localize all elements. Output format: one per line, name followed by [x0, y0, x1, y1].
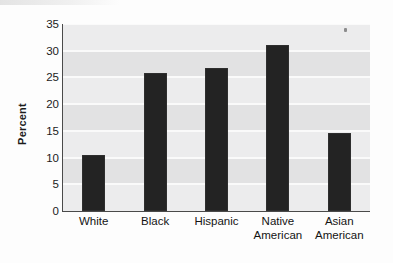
- bar: [328, 133, 351, 211]
- scan-artifact-smudge: [0, 0, 120, 5]
- x-axis-tick-label: AsianAmerican: [315, 214, 364, 242]
- x-axis-tick-label-line: Black: [141, 215, 169, 227]
- y-axis-tick-label: 15: [46, 125, 59, 137]
- x-axis-tick-label: Hispanic: [194, 214, 238, 228]
- y-axis-tick-label: 20: [46, 98, 59, 110]
- x-axis-tick-label-line: Hispanic: [194, 215, 238, 227]
- y-axis-tick-label: 0: [53, 205, 59, 217]
- y-axis-line: [62, 24, 63, 212]
- x-axis-tick-label-line: White: [79, 215, 108, 227]
- bar: [144, 73, 167, 211]
- y-axis-tick-labels: 05101520253035: [33, 24, 59, 211]
- bar: [205, 68, 228, 211]
- x-axis-line: [63, 211, 370, 212]
- x-axis-tick-label-line: American: [315, 228, 364, 242]
- bar-chart-figure: Percent 05101520253035 WhiteBlackHispani…: [0, 0, 393, 263]
- x-axis-tick-label: Black: [141, 214, 169, 228]
- y-axis-tick-label: 5: [53, 178, 59, 190]
- x-axis-tick-label-line: Native: [262, 215, 295, 227]
- x-axis-tick-label-line: American: [254, 228, 303, 242]
- bar: [82, 155, 105, 211]
- x-axis-tick-label-line: Asian: [325, 215, 354, 227]
- y-axis-tick-label: 30: [46, 45, 59, 57]
- y-axis-title-label: Percent: [16, 103, 28, 145]
- x-axis-tick-label: NativeAmerican: [254, 214, 303, 242]
- x-axis-tick-labels: WhiteBlackHispanicNativeAmericanAsianAme…: [63, 214, 370, 254]
- y-axis-tick-label: 35: [46, 18, 59, 30]
- scan-artifact-dot: [344, 28, 347, 32]
- y-axis-title: Percent: [14, 86, 30, 162]
- y-axis-tick-label: 10: [46, 152, 59, 164]
- bars-layer: [63, 24, 370, 211]
- y-axis-tick-label: 25: [46, 71, 59, 83]
- x-axis-tick-label: White: [79, 214, 108, 228]
- bar: [266, 45, 289, 211]
- plot-area: [63, 24, 370, 211]
